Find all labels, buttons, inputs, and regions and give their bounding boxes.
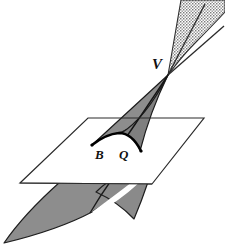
upper-nappe-stippled: [168, 0, 225, 75]
base-curve-endpoint-b: [90, 143, 93, 146]
vertex-label-v: V: [152, 57, 162, 72]
upper-nappe-shape: [168, 0, 225, 75]
figure-canvas: [0, 0, 225, 248]
cone-plane-figure: V B Q: [0, 0, 225, 248]
point-label-b: B: [95, 148, 104, 161]
lower-nappe-solid: [4, 182, 148, 243]
point-label-q: Q: [119, 148, 128, 161]
base-curve-endpoint-q: [139, 149, 142, 152]
